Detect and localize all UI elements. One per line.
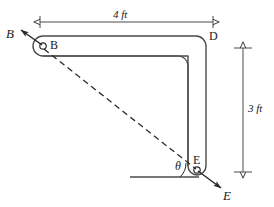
dimension-label-4ft: 4 ft — [113, 9, 127, 20]
angle-label-theta: θ — [175, 160, 181, 172]
point-label-e: E — [193, 154, 200, 166]
bracket-inner-edge — [43, 56, 188, 166]
diagram-canvas — [0, 0, 274, 207]
dimension-label-3ft: 3 ft — [248, 103, 262, 114]
force-label-e: E — [223, 189, 231, 202]
engineering-diagram: 4 ft 3 ft B B D E E θ — [0, 0, 274, 207]
force-arrow-e — [198, 171, 221, 188]
point-label-d: D — [209, 30, 218, 42]
force-label-b: B — [6, 27, 14, 40]
point-label-b: B — [50, 39, 58, 51]
bracket-outline — [33, 36, 206, 175]
bracket-body — [33, 36, 206, 175]
dashed-line-be — [44, 49, 196, 169]
